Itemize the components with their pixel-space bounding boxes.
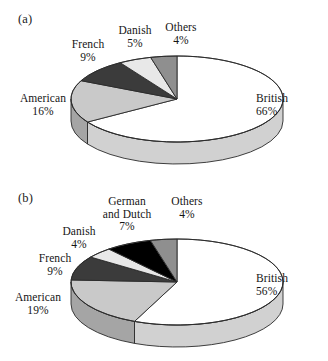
slice-label-others-b-name: Others bbox=[171, 195, 202, 207]
slice-label-others-b: Others 4% bbox=[163, 195, 211, 220]
slice-label-french-a-pct: 9% bbox=[61, 51, 115, 64]
slice-label-british-a-pct: 66% bbox=[256, 105, 288, 118]
slice-label-danish-a-pct: 5% bbox=[111, 37, 159, 50]
slice-label-german-dutch-b: German and Dutch 7% bbox=[95, 195, 159, 233]
pie-chart-panel-a: (a) British 66% American 16% French 9% D… bbox=[0, 0, 328, 180]
slice-label-others-a-pct: 4% bbox=[157, 34, 205, 47]
slice-label-american-b-name: American bbox=[15, 291, 61, 303]
slice-label-danish-b-name: Danish bbox=[62, 225, 95, 237]
slice-label-british-b-name: British bbox=[256, 272, 288, 284]
slice-label-danish-b-pct: 4% bbox=[52, 238, 106, 251]
slice-label-american-b-pct: 19% bbox=[2, 304, 74, 317]
slice-label-danish-a: Danish 5% bbox=[111, 24, 159, 49]
slice-label-american-a-name: American bbox=[20, 92, 66, 104]
slice-label-german-dutch-b-pct: 7% bbox=[95, 220, 159, 233]
slice-label-french-a: French 9% bbox=[61, 38, 115, 63]
slice-label-french-b: French 9% bbox=[28, 252, 82, 277]
slice-label-danish-a-name: Danish bbox=[118, 24, 151, 36]
slice-label-american-b: American 19% bbox=[2, 291, 74, 316]
pie-chart-panel-b: (b) British 56% American 19% French 9% D… bbox=[0, 180, 328, 361]
slice-label-others-b-pct: 4% bbox=[163, 208, 211, 221]
slice-label-american-a: American 16% bbox=[7, 92, 79, 117]
slice-label-others-a-name: Others bbox=[165, 21, 196, 33]
slice-label-german-dutch-b-name-line2: and Dutch bbox=[95, 208, 159, 221]
slice-label-french-a-name: French bbox=[72, 38, 105, 50]
slice-label-british-a: British 66% bbox=[256, 92, 288, 117]
slice-label-british-a-name: British bbox=[256, 92, 288, 104]
slice-label-french-b-name: French bbox=[39, 252, 72, 264]
slice-label-german-dutch-b-name-line1: German bbox=[108, 195, 146, 207]
slice-label-american-a-pct: 16% bbox=[7, 105, 79, 118]
slice-label-others-a: Others 4% bbox=[157, 21, 205, 46]
slice-label-french-b-pct: 9% bbox=[28, 265, 82, 278]
slice-label-british-b-pct: 56% bbox=[256, 285, 288, 298]
slice-label-british-b: British 56% bbox=[256, 272, 288, 297]
